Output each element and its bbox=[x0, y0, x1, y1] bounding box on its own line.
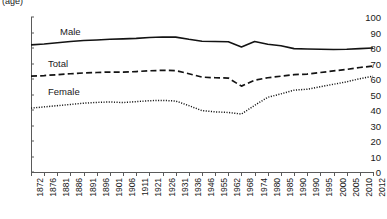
series-label-total: Total bbox=[48, 58, 68, 69]
series-line-total bbox=[31, 66, 373, 86]
series-label-female: Female bbox=[48, 86, 80, 97]
series-line-female bbox=[31, 76, 373, 114]
series-label-male: Male bbox=[60, 26, 81, 37]
series-line-male bbox=[31, 37, 373, 50]
